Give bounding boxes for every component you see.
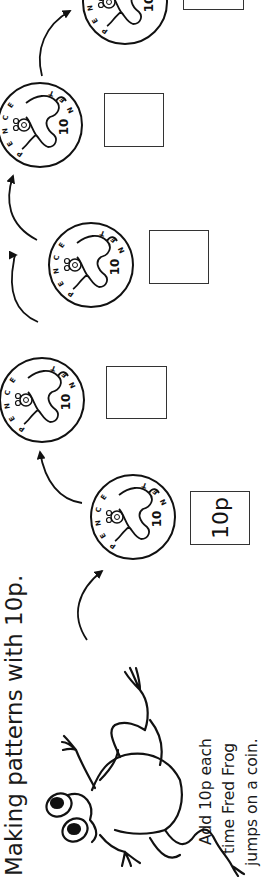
- coin-1: [91, 475, 175, 559]
- coin-3: [49, 223, 133, 307]
- coin-2: [0, 358, 84, 442]
- frog-icon: [42, 668, 244, 876]
- coin-4: [0, 83, 82, 167]
- coin-5: [83, 0, 167, 44]
- worksheet-graphics: 10 P E N C E T E N: [0, 0, 267, 877]
